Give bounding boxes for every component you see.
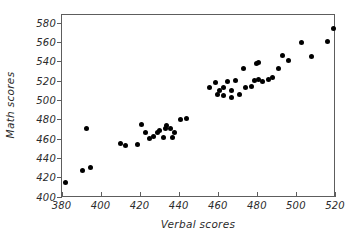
data-point xyxy=(331,26,336,31)
y-tick-label: 440 xyxy=(36,152,56,163)
y-tick-label: 500 xyxy=(36,94,56,105)
y-tick-mark xyxy=(57,197,62,198)
data-point xyxy=(309,54,314,59)
x-axis-title: Verbal scores xyxy=(161,218,236,230)
y-tick-label: 540 xyxy=(36,56,56,67)
y-tick-label: 520 xyxy=(36,75,56,86)
x-tick-label: 500 xyxy=(286,200,306,211)
y-tick-mark xyxy=(57,158,62,159)
data-point xyxy=(161,135,166,140)
data-point xyxy=(286,58,291,63)
data-point xyxy=(135,142,140,147)
x-tick-mark xyxy=(257,192,258,197)
x-tick-mark xyxy=(140,192,141,197)
x-tick-mark xyxy=(218,192,219,197)
x-tick-label: 480 xyxy=(247,200,267,211)
y-tick-label: 580 xyxy=(36,17,56,28)
y-tick-label: 400 xyxy=(36,191,56,202)
y-tick-label: 420 xyxy=(36,172,56,183)
data-point xyxy=(221,85,226,90)
y-tick-label: 560 xyxy=(36,36,56,47)
data-point xyxy=(151,134,156,139)
x-tick-mark xyxy=(296,192,297,197)
plot-area xyxy=(61,14,335,197)
data-point xyxy=(118,141,123,146)
data-point xyxy=(256,60,261,65)
y-tick-mark xyxy=(57,23,62,24)
data-point xyxy=(221,93,226,98)
data-point xyxy=(237,92,242,97)
x-tick-label: 520 xyxy=(325,200,345,211)
x-tick-mark xyxy=(335,192,336,197)
data-point xyxy=(243,85,248,90)
data-point xyxy=(184,116,189,121)
x-tick-mark xyxy=(179,192,180,197)
y-tick-mark xyxy=(57,100,62,101)
data-point xyxy=(225,79,230,84)
y-axis-title: Math scores xyxy=(4,72,16,139)
x-tick-label: 420 xyxy=(130,200,150,211)
x-tick-mark xyxy=(101,192,102,197)
y-tick-mark xyxy=(57,119,62,120)
y-tick-label: 460 xyxy=(36,133,56,144)
data-point xyxy=(229,88,234,93)
y-tick-mark xyxy=(57,139,62,140)
data-point xyxy=(249,84,254,89)
data-point xyxy=(233,78,238,83)
y-tick-mark xyxy=(57,177,62,178)
x-tick-label: 460 xyxy=(208,200,228,211)
y-tick-label: 480 xyxy=(36,114,56,125)
data-point xyxy=(280,53,285,58)
y-tick-mark xyxy=(57,81,62,82)
scatter-plot-figure: 380400420440460480500520 400420440460480… xyxy=(0,0,352,249)
x-tick-label: 400 xyxy=(91,200,111,211)
y-tick-mark xyxy=(57,42,62,43)
x-tick-label: 440 xyxy=(169,200,189,211)
data-point xyxy=(178,117,183,122)
data-point xyxy=(157,128,162,133)
y-tick-mark xyxy=(57,61,62,62)
